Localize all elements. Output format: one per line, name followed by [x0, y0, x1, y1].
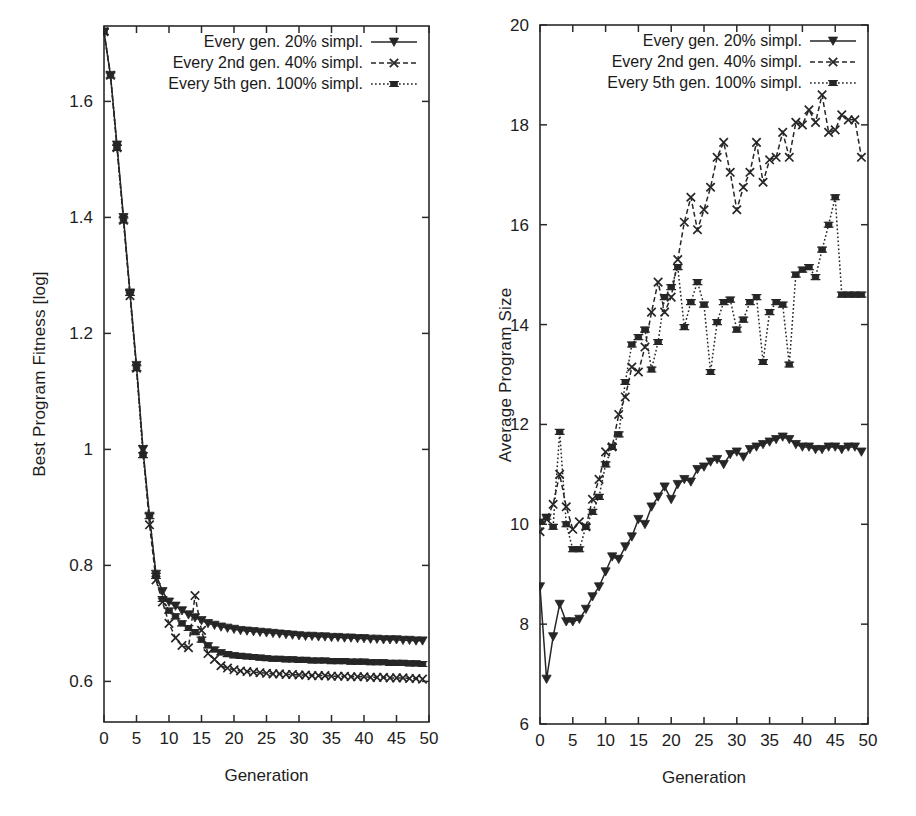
data-point	[765, 310, 775, 315]
data-point	[667, 495, 676, 503]
data-point	[745, 300, 755, 305]
x-tick-label: 10	[596, 731, 615, 750]
data-point	[647, 503, 656, 511]
x-tick-label: 20	[662, 731, 681, 750]
data-point	[138, 453, 148, 458]
series-path	[104, 32, 423, 664]
series-path	[104, 32, 423, 679]
x-tick-label: 0	[535, 731, 544, 750]
data-point	[712, 320, 722, 325]
data-point	[112, 145, 122, 150]
data-point	[125, 290, 135, 295]
x-tick-label: 40	[355, 729, 374, 748]
x-tick-label: 5	[132, 729, 141, 748]
data-point	[132, 366, 142, 371]
data-point	[217, 662, 225, 670]
data-point	[640, 520, 649, 528]
y-tick-label: 16	[510, 216, 529, 235]
data-point	[601, 568, 610, 576]
y-tick-label: 1.6	[69, 92, 93, 111]
data-point	[686, 478, 695, 486]
y-tick-label: 10	[510, 515, 529, 534]
x-tick-label: 0	[99, 729, 108, 748]
series-2	[536, 91, 866, 536]
series-2	[100, 28, 427, 684]
data-point	[542, 514, 552, 519]
data-point	[647, 367, 657, 372]
data-point	[857, 153, 865, 161]
data-point	[548, 524, 558, 529]
data-point	[640, 327, 650, 332]
data-point	[700, 206, 708, 214]
data-point	[620, 380, 630, 385]
data-point	[535, 519, 545, 524]
data-point	[594, 494, 604, 499]
legend-marker	[828, 81, 838, 86]
data-point	[706, 370, 716, 375]
x-tick-label: 30	[290, 729, 309, 748]
x-tick-label: 35	[760, 731, 779, 750]
data-point	[660, 295, 670, 300]
data-point	[549, 633, 558, 641]
plot-frame	[540, 25, 868, 724]
y-tick-label: 1.4	[69, 208, 93, 227]
data-point	[686, 300, 696, 305]
y-axis-title-right: Average Program Size	[496, 287, 516, 462]
x-tick-label: 40	[793, 731, 812, 750]
x-tick-label: 5	[568, 731, 577, 750]
data-point	[119, 218, 129, 223]
data-point	[673, 265, 683, 270]
data-point	[588, 593, 597, 601]
data-point	[791, 272, 801, 277]
data-point	[758, 360, 768, 365]
series-path	[104, 32, 423, 641]
data-point	[811, 275, 821, 280]
series-1	[99, 28, 427, 645]
legend-marker	[389, 82, 399, 87]
data-point	[634, 335, 644, 340]
x-tick-label: 50	[420, 729, 439, 748]
plot-frame	[104, 26, 429, 722]
data-point	[614, 555, 623, 563]
data-point	[666, 285, 676, 290]
data-point	[627, 533, 636, 541]
data-point	[759, 178, 767, 186]
legend-label: Every 2nd gen. 40% simpl.	[612, 53, 802, 70]
plot-area-right: 0510152025303540455068101214161820Every …	[458, 0, 916, 816]
data-point	[778, 302, 788, 307]
x-tick-label: 35	[322, 729, 341, 748]
data-point	[581, 524, 591, 529]
data-point	[145, 514, 155, 519]
data-point	[542, 675, 551, 683]
data-point	[805, 106, 813, 114]
x-tick-label: 50	[859, 731, 878, 750]
data-point	[653, 493, 662, 501]
data-point	[857, 292, 867, 297]
data-point	[164, 608, 174, 613]
x-tick-label: 45	[387, 729, 406, 748]
y-tick-label: 0.6	[69, 672, 93, 691]
data-point	[607, 444, 617, 449]
y-tick-label: 18	[510, 116, 529, 135]
legend-label: Every gen. 20% simpl.	[204, 33, 363, 50]
data-point	[693, 465, 702, 473]
data-point	[693, 226, 701, 234]
data-point	[752, 295, 762, 300]
data-point	[418, 662, 428, 667]
data-point	[857, 448, 866, 456]
data-point	[184, 644, 192, 652]
data-point	[725, 297, 735, 302]
data-point	[178, 641, 186, 649]
x-tick-label: 15	[629, 731, 648, 750]
data-point	[739, 183, 747, 191]
series-group	[99, 28, 427, 684]
series-1	[535, 433, 866, 683]
data-point	[594, 583, 603, 591]
x-tick-label: 45	[826, 731, 845, 750]
x-tick-label: 25	[695, 731, 714, 750]
figure-container: Best Program Fitness [log] Generation 05…	[0, 0, 916, 816]
data-point	[733, 206, 741, 214]
data-point	[719, 460, 728, 468]
data-point	[726, 450, 735, 458]
series-3	[99, 29, 427, 666]
